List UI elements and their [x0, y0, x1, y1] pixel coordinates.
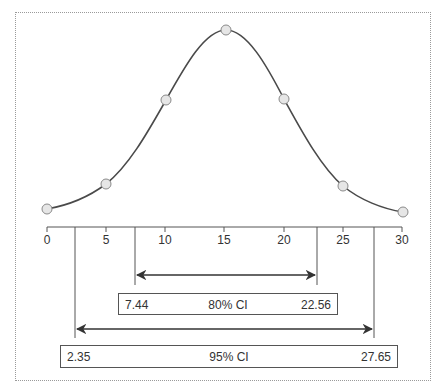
chart-plot — [0, 0, 446, 392]
data-point — [42, 204, 52, 214]
ci95-box: 2.35 95% CI 27.65 — [60, 345, 398, 368]
ci95-label: 95% CI — [209, 350, 248, 364]
tick-label-0: 0 — [44, 233, 51, 247]
ci80-box: 7.44 80% CI 22.56 — [118, 293, 338, 315]
tick-label-15: 15 — [217, 233, 230, 247]
tick-label-25: 25 — [336, 233, 349, 247]
x-axis — [47, 227, 402, 232]
ci80-low: 7.44 — [125, 298, 148, 312]
data-point — [279, 94, 289, 104]
ci95-high: 27.65 — [361, 350, 391, 364]
data-point — [398, 207, 408, 217]
tick-label-20: 20 — [277, 233, 290, 247]
ci95-low: 2.35 — [67, 350, 90, 364]
data-point — [101, 179, 111, 189]
tick-label-5: 5 — [103, 233, 110, 247]
tick-label-30: 30 — [395, 233, 408, 247]
data-point — [338, 181, 348, 191]
data-point — [221, 25, 231, 35]
data-point — [161, 95, 171, 105]
data-points — [42, 25, 408, 217]
tick-label-10: 10 — [158, 233, 171, 247]
ci80-high: 22.56 — [301, 298, 331, 312]
ci80-label: 80% CI — [208, 298, 247, 312]
density-curve — [47, 30, 403, 212]
